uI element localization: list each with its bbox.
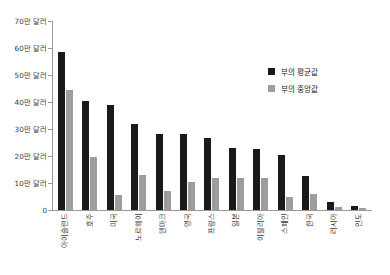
x-axis-line <box>52 210 372 211</box>
bar-median <box>164 191 171 210</box>
x-axis-label: 프랑스 <box>208 213 215 234</box>
bar-median <box>261 178 268 210</box>
bar-group <box>298 21 322 210</box>
bar-median <box>66 90 73 210</box>
legend-label-mean: 부의 평균값 <box>281 66 318 77</box>
legend-swatch-median-icon <box>268 85 275 92</box>
y-axis-label: 30만 달러 <box>15 124 47 134</box>
bar-median <box>286 197 293 211</box>
bar-mean <box>351 206 358 210</box>
x-axis-label: 스페인 <box>282 213 289 234</box>
bar-median <box>90 157 97 210</box>
x-axis-label: 러시아 <box>331 213 338 234</box>
bar-mean <box>131 124 138 210</box>
x-axis-label: 일본 <box>233 213 240 227</box>
bar-group <box>102 21 126 210</box>
x-axis-label: 영국 <box>184 213 191 227</box>
bar-mean <box>82 101 89 210</box>
bar-mean <box>204 138 211 210</box>
bar-median <box>212 178 219 210</box>
bar-group <box>53 21 77 210</box>
bar-group <box>322 21 346 210</box>
x-axis-label: 호주 <box>86 213 93 227</box>
bar-group <box>77 21 101 210</box>
chart-legend: 부의 평균값 부의 중앙값 <box>268 66 318 100</box>
y-axis-tick <box>48 210 53 211</box>
y-axis-label: 20만 달러 <box>15 151 47 161</box>
bar-median <box>188 182 195 210</box>
bar-mean <box>180 134 187 210</box>
wealth-bar-chart: 010만 달러20만 달러30만 달러40만 달러50만 달러60만 달러70만… <box>0 0 390 275</box>
bar-mean <box>327 202 334 210</box>
legend-item-median: 부의 중앙값 <box>268 83 318 94</box>
legend-swatch-mean-icon <box>268 68 275 75</box>
plot-area <box>53 21 371 210</box>
y-axis-label: 40만 달러 <box>15 97 47 107</box>
bar-median <box>335 207 342 210</box>
bar-group <box>273 21 297 210</box>
bar-mean <box>253 149 260 210</box>
bar-group <box>224 21 248 210</box>
bar-mean <box>156 134 163 210</box>
bar-median <box>139 175 146 210</box>
bar-median <box>310 194 317 210</box>
x-axis-label: 아이슬란드 <box>62 213 69 248</box>
bar-mean <box>58 52 65 210</box>
bar-median <box>115 195 122 210</box>
y-axis-label: 0 <box>42 206 47 215</box>
bar-group <box>151 21 175 210</box>
bar-median <box>359 208 366 210</box>
legend-label-median: 부의 중앙값 <box>281 83 318 94</box>
x-axis-label: 덴마크 <box>159 213 166 234</box>
legend-item-mean: 부의 평균값 <box>268 66 318 77</box>
bar-group <box>249 21 273 210</box>
bar-group <box>347 21 371 210</box>
bar-mean <box>107 105 114 210</box>
x-axis-label: 인도 <box>355 213 362 227</box>
bar-mean <box>302 176 309 210</box>
y-axis-label: 10만 달러 <box>15 178 47 188</box>
bar-mean <box>229 148 236 210</box>
x-axis-label: 미국 <box>111 213 118 227</box>
bar-group <box>200 21 224 210</box>
x-axis-label: 한국 <box>306 213 313 227</box>
bar-mean <box>278 155 285 210</box>
bar-group <box>175 21 199 210</box>
y-axis-label: 70만 달러 <box>15 16 47 26</box>
bar-group <box>126 21 150 210</box>
x-axis-label: 노르웨이 <box>135 213 142 241</box>
y-axis-label: 50만 달러 <box>15 70 47 80</box>
x-axis-label: 이탈리아 <box>257 213 264 241</box>
y-axis-label: 60만 달러 <box>15 43 47 53</box>
bar-median <box>237 178 244 210</box>
